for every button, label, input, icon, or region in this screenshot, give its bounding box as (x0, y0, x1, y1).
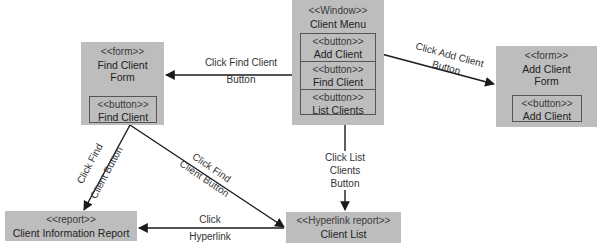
edge-label-line: Button (196, 73, 286, 86)
edge-label-line: Click List (315, 151, 375, 164)
edge-label-list-to-report: Click Hyperlink (180, 213, 240, 243)
add-client-form-stereotype: <<form>> (496, 50, 597, 63)
edge-label-line: Button (315, 177, 375, 190)
add-client-form-title-line1: Add Client (496, 63, 597, 76)
edge-label-line: Click Find Client (196, 56, 286, 69)
find-client-form-title-line1: Find Client (81, 59, 164, 72)
client-menu-window: <<Window>> Client Menu <<button>> Add Cl… (292, 0, 384, 125)
edge-label-menu-to-list: Click List Clients Button (315, 151, 375, 190)
client-information-report: <<report>> Client Information Report (5, 211, 137, 241)
add-client-form-button-stereotype: <<button>> (513, 98, 581, 110)
find-client-form-button-label: Find Client (90, 111, 156, 123)
add-client-button-stereotype: <<button>> (301, 36, 375, 48)
edge-label-line: Click (180, 213, 240, 226)
find-client-form-title-line2: Form (81, 71, 164, 84)
find-client-form-stereotype: <<form>> (81, 46, 164, 59)
add-client-button-label: Add Client (301, 48, 375, 60)
list-clients-button[interactable]: <<button>> List Clients (300, 89, 376, 115)
list-clients-button-label: List Clients (301, 104, 375, 116)
find-client-button-stereotype: <<button>> (301, 64, 375, 76)
add-client-button[interactable]: <<button>> Add Client (300, 33, 376, 62)
client-list-report: <<Hyperlink report>> Client List (286, 212, 401, 243)
client-list-title: Client List (286, 228, 401, 241)
client-information-report-stereotype: <<report>> (5, 214, 137, 227)
client-information-report-title: Client Information Report (5, 227, 137, 240)
find-client-form: <<form>> Find Client Form <<button>> Fin… (81, 42, 164, 125)
add-client-form-title-line2: Form (496, 75, 597, 88)
edge-label-line: Clients (315, 164, 375, 177)
edge-label-line: Hyperlink (180, 230, 240, 243)
find-client-button-label: Find Client (301, 76, 375, 88)
client-menu-stereotype: <<Window>> (292, 5, 384, 18)
list-clients-button-stereotype: <<button>> (301, 92, 375, 104)
add-client-form-button-label: Add Client (513, 110, 581, 122)
add-client-form: <<form>> Add Client Form <<button>> Add … (496, 46, 597, 127)
find-client-form-button[interactable]: <<button>> Find Client (89, 96, 157, 123)
edge-label-menu-to-find: Click Find Client Button (196, 56, 286, 86)
client-menu-title: Client Menu (292, 18, 384, 31)
add-client-form-button[interactable]: <<button>> Add Client (512, 95, 582, 122)
client-list-stereotype: <<Hyperlink report>> (286, 215, 401, 228)
find-client-button[interactable]: <<button>> Find Client (300, 61, 376, 90)
find-client-form-button-stereotype: <<button>> (90, 99, 156, 111)
